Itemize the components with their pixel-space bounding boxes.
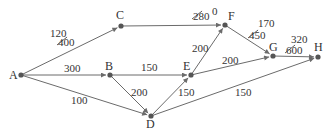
node-a bbox=[18, 72, 23, 77]
edge-label: 150 bbox=[141, 61, 158, 73]
node-label-h: H bbox=[314, 40, 323, 54]
edge-label: 200 bbox=[192, 42, 209, 54]
node-label-d: D bbox=[146, 117, 155, 131]
edge-label: 150 bbox=[178, 86, 195, 98]
node-label-f: F bbox=[228, 9, 235, 23]
node-label-c: C bbox=[116, 8, 124, 22]
edge-d-h bbox=[151, 58, 314, 116]
node-f bbox=[222, 22, 227, 27]
node-label-g: G bbox=[269, 40, 278, 54]
edge-labels-layer: 1204002800300150200100150150200200170450… bbox=[50, 5, 308, 106]
edge-label: 100 bbox=[71, 94, 88, 106]
network-diagram: 1204002800300150200100150150200200170450… bbox=[0, 0, 332, 132]
edge-g-h bbox=[273, 56, 314, 57]
node-b bbox=[107, 72, 112, 77]
node-label-b: B bbox=[105, 59, 113, 73]
edge-label: 200 bbox=[131, 86, 148, 98]
edge-label: 300 bbox=[64, 62, 81, 74]
edge-c-f bbox=[121, 25, 221, 26]
edge-label: 150 bbox=[235, 86, 252, 98]
node-h bbox=[315, 54, 320, 59]
node-e bbox=[188, 72, 193, 77]
node-g bbox=[270, 53, 275, 58]
node-label-e: E bbox=[183, 59, 190, 73]
edge-label: 0 bbox=[212, 5, 218, 17]
edge-label: 200 bbox=[222, 54, 239, 66]
edge-label: 170 bbox=[258, 17, 275, 29]
node-label-a: A bbox=[9, 68, 18, 82]
node-c bbox=[118, 23, 123, 28]
